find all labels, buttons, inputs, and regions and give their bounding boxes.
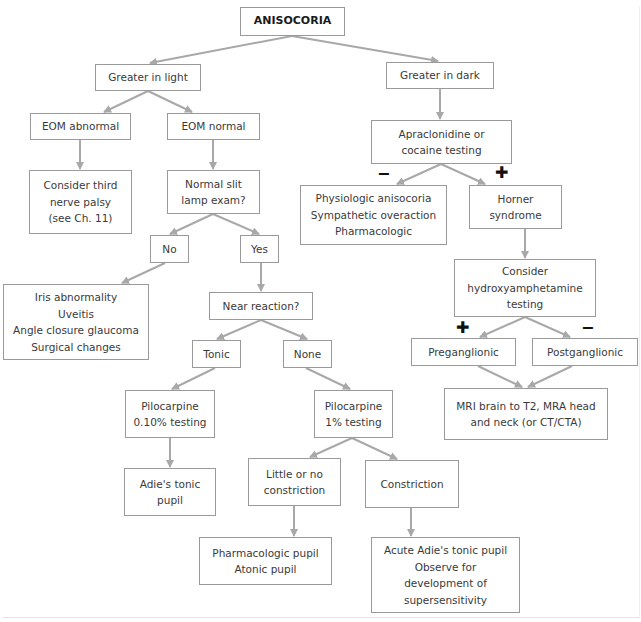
node-label: No — [162, 241, 176, 258]
node-label: Yes — [251, 241, 268, 258]
node-label: Consider — [502, 263, 548, 280]
node-label: Little or no — [266, 466, 323, 483]
node-label: Physiologic anisocoria — [316, 190, 432, 207]
node-postganglionic: Postganglionic — [532, 338, 638, 366]
node-constriction: Constriction — [365, 460, 459, 508]
node-consider-hydroxyamphetamine: Consider hydroxyamphetamine testing — [454, 259, 596, 317]
node-label: Constriction — [380, 476, 443, 493]
node-label: syndrome — [489, 207, 541, 224]
node-label: Greater in dark — [400, 67, 480, 84]
node-preganglionic: Preganglionic — [411, 338, 516, 366]
node-label: Acute Adie's tonic pupil — [384, 542, 507, 559]
node-label: Apraclonidine or — [398, 126, 484, 143]
node-label: Adie's tonic — [140, 476, 201, 493]
node-near-reaction: Near reaction? — [209, 292, 313, 320]
node-label: Consider third — [43, 177, 117, 194]
node-consider-third-nerve-palsy: Consider third nerve palsy (see Ch. 11) — [29, 170, 132, 234]
node-iris-abnormality: Iris abnormality Uveitis Angle closure g… — [3, 284, 149, 360]
node-label: Pilocarpine — [325, 398, 383, 415]
node-label: Uveitis — [58, 306, 94, 323]
node-eom-abnormal: EOM abnormal — [30, 113, 131, 140]
plus-sign-icon: ✚ — [456, 320, 469, 336]
node-label: constriction — [264, 482, 326, 499]
node-label: Pharmacologic — [335, 223, 412, 240]
node-label: hydroxyamphetamine — [467, 280, 582, 297]
node-label: Horner — [498, 191, 534, 208]
node-label: None — [294, 346, 321, 363]
node-pharmacologic-pupil: Pharmacologic pupil Atonic pupil — [199, 537, 332, 585]
node-label: Tonic — [203, 346, 229, 363]
node-adies-tonic-pupil: Adie's tonic pupil — [124, 468, 216, 516]
node-label: 0.10% testing — [133, 414, 206, 431]
node-label: Greater in light — [108, 69, 188, 86]
node-label: lamp exam? — [181, 192, 245, 209]
node-acute-adies-tonic-pupil: Acute Adie's tonic pupil Observe for dev… — [371, 537, 520, 613]
node-pilocarpine-010-testing: Pilocarpine 0.10% testing — [125, 390, 215, 438]
node-label: and neck (or CT/CTA) — [470, 414, 581, 431]
node-eom-normal: EOM normal — [167, 113, 260, 140]
node-pilocarpine-1-testing: Pilocarpine 1% testing — [314, 390, 393, 438]
node-label: Iris abnormality — [35, 289, 117, 306]
node-label: (see Ch. 11) — [49, 210, 113, 227]
plus-sign-icon: ✚ — [495, 165, 508, 181]
node-label: Pharmacologic pupil — [212, 545, 318, 562]
node-little-or-no-constriction: Little or no constriction — [248, 458, 341, 506]
node-tonic: Tonic — [192, 340, 241, 368]
node-label: cocaine testing — [401, 142, 481, 159]
node-label: MRI brain to T2, MRA head — [456, 398, 595, 415]
node-label: Pilocarpine — [141, 398, 199, 415]
node-greater-in-light: Greater in light — [95, 64, 201, 91]
node-label: Near reaction? — [223, 298, 300, 315]
node-physiologic-anisocoria: Physiologic anisocoria Sympathetic overa… — [300, 185, 447, 245]
node-label: testing — [507, 296, 543, 313]
node-none: None — [283, 340, 332, 368]
node-label: nerve palsy — [50, 194, 111, 211]
node-label: Preganglionic — [428, 344, 499, 361]
node-label: Sympathetic overaction — [311, 207, 436, 224]
node-anisocoria: ANISOCORIA — [240, 7, 345, 36]
node-normal-slit-lamp-exam: Normal slit lamp exam? — [167, 170, 260, 214]
node-label: 1% testing — [325, 414, 381, 431]
node-no: No — [150, 235, 189, 263]
node-greater-in-dark: Greater in dark — [386, 62, 494, 89]
node-label: pupil — [157, 492, 183, 509]
minus-sign-icon: − — [581, 320, 594, 336]
node-label: Surgical changes — [31, 339, 121, 356]
node-horner-syndrome: Horner syndrome — [469, 185, 562, 229]
node-apraclonidine-cocaine-testing: Apraclonidine or cocaine testing — [371, 120, 512, 164]
node-label: Observe for — [415, 559, 477, 576]
node-label: Atonic pupil — [234, 561, 296, 578]
node-label: supersensitivity — [404, 592, 487, 609]
minus-sign-icon: − — [377, 166, 390, 182]
node-label: Postganglionic — [547, 344, 623, 361]
node-label: EOM normal — [181, 118, 245, 135]
node-yes: Yes — [240, 235, 279, 263]
node-label: development of — [404, 575, 487, 592]
node-label: ANISOCORIA — [254, 13, 332, 30]
node-mri-mra: MRI brain to T2, MRA head and neck (or C… — [444, 388, 608, 440]
node-label: Angle closure glaucoma — [13, 322, 139, 339]
node-label: EOM abnormal — [42, 118, 119, 135]
node-label: Normal slit — [185, 176, 242, 193]
